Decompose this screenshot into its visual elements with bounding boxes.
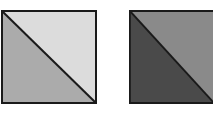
left-square (1, 10, 97, 104)
left-square-graphic (1, 10, 97, 104)
right-square-graphic (129, 10, 213, 104)
right-square (129, 10, 213, 104)
